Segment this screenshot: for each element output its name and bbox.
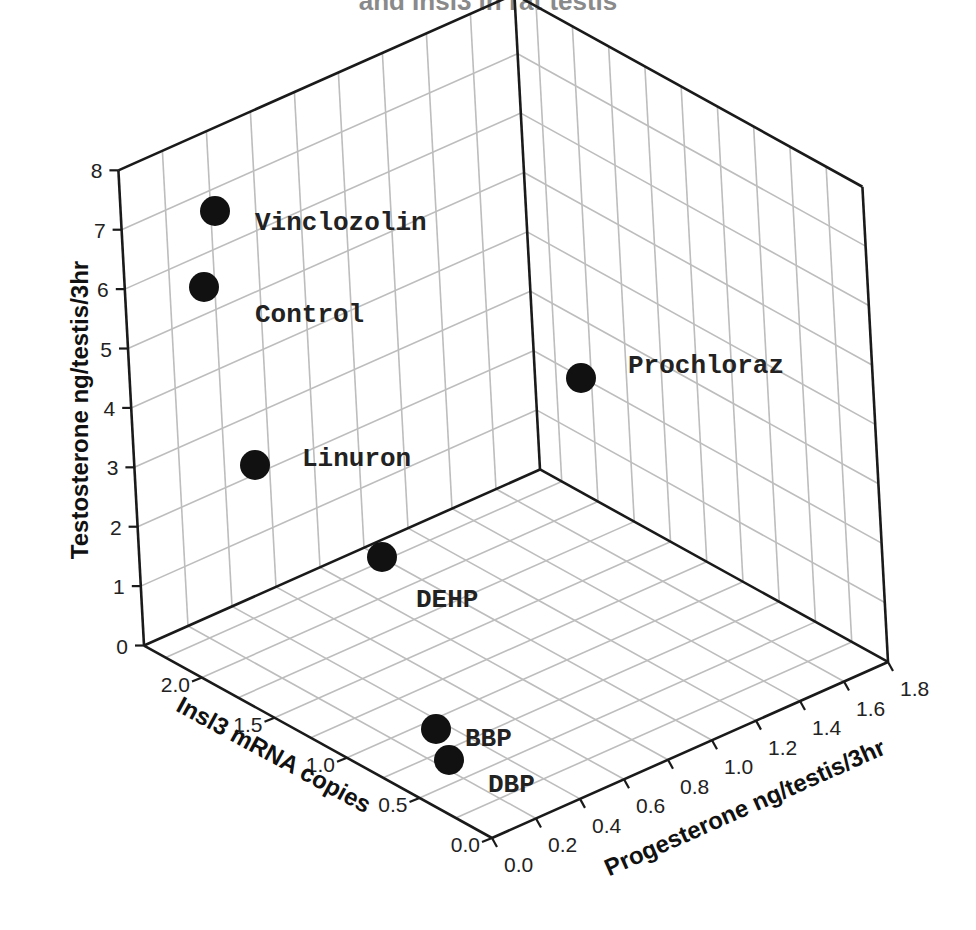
y-tick-label: 0.0 xyxy=(451,833,480,856)
z-tick-label: 4 xyxy=(104,397,116,420)
y-tick xyxy=(265,718,275,722)
data-point-bbp xyxy=(421,714,451,744)
y-tick xyxy=(192,678,202,682)
x-tick-label: 0.4 xyxy=(592,814,622,837)
x-tick-label: 1.4 xyxy=(812,716,842,739)
scatter3d-chart: 0123456780.00.51.01.52.00.00.20.40.60.81… xyxy=(0,0,976,930)
z-tick-label: 5 xyxy=(100,338,112,361)
x-tick xyxy=(844,682,849,691)
x-tick xyxy=(888,662,893,671)
wall-gridline xyxy=(527,232,875,424)
floor-gridline xyxy=(420,622,816,798)
wall-gridline xyxy=(518,54,866,246)
floor-gridline xyxy=(311,562,707,738)
x-tick xyxy=(492,838,497,847)
data-point-linuron xyxy=(240,450,270,480)
z-tick-label: 7 xyxy=(94,219,106,242)
z-tick-label: 3 xyxy=(107,456,119,479)
point-label-dehp: DEHP xyxy=(416,585,478,615)
y-axis-title: Insl3 mRNA copies xyxy=(172,691,375,818)
z-tick-label: 8 xyxy=(91,159,103,182)
x-tick xyxy=(624,779,629,788)
floor-gridline xyxy=(202,502,598,678)
x-tick-label: 0.0 xyxy=(504,853,533,876)
point-label-control: Control xyxy=(255,300,364,330)
box-edge xyxy=(514,0,540,469)
wall-gridline xyxy=(521,113,869,305)
z-tick-label: 2 xyxy=(110,516,122,539)
z-tick-label: 0 xyxy=(116,635,128,658)
x-tick xyxy=(580,799,585,808)
x-axis-line xyxy=(492,662,888,838)
data-point-vinclozolin xyxy=(200,196,230,226)
point-label-bbp: BBP xyxy=(465,724,512,754)
floor-gridline xyxy=(275,542,671,718)
data-point-dehp xyxy=(367,542,397,572)
y-tick xyxy=(337,758,347,762)
box-edge xyxy=(514,0,862,187)
x-tick xyxy=(800,701,805,710)
point-label-dbp: DBP xyxy=(488,770,535,800)
data-point-control xyxy=(189,272,219,302)
point-label-prochloraz: Prochloraz xyxy=(628,351,784,381)
z-tick-label: 1 xyxy=(113,575,125,598)
x-tick-label: 1.6 xyxy=(856,697,885,720)
x-tick-label: 0.8 xyxy=(680,775,709,798)
wall-gridline xyxy=(524,172,872,364)
data-point-dbp xyxy=(434,745,464,775)
x-tick xyxy=(712,740,717,749)
point-label-vinclozolin: Vinclozolin xyxy=(255,208,427,238)
x-tick-label: 1.2 xyxy=(768,736,797,759)
x-tick-label: 1.8 xyxy=(900,677,929,700)
box-edge xyxy=(540,469,888,661)
point-label-linuron: Linuron xyxy=(302,444,411,474)
floor-gridline xyxy=(347,582,743,758)
floor-gridline xyxy=(364,548,712,740)
x-tick-label: 0.6 xyxy=(636,794,665,817)
y-tick xyxy=(482,838,492,842)
x-tick-label: 1.0 xyxy=(724,755,753,778)
x-tick xyxy=(756,721,761,730)
floor-gridline xyxy=(452,509,800,701)
floor-gridline xyxy=(408,528,756,720)
box-edge xyxy=(118,0,514,170)
x-tick xyxy=(536,818,541,827)
z-axis-title: Testosterone ng/testis/3hr xyxy=(66,261,93,559)
y-tick xyxy=(410,798,420,802)
z-tick-label: 6 xyxy=(97,278,109,301)
x-tick xyxy=(668,760,673,769)
data-point-prochloraz xyxy=(566,363,596,393)
floor-gridline xyxy=(166,482,562,658)
y-tick-label: 0.5 xyxy=(378,793,407,816)
x-tick-label: 0.2 xyxy=(548,833,577,856)
box-edge xyxy=(862,187,888,662)
